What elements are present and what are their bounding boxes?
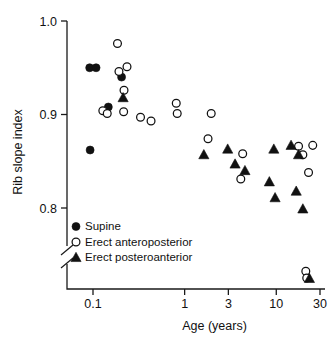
data-point [237, 175, 245, 183]
data-point [269, 144, 279, 153]
y-tick-label-0.9: 0.9 [40, 108, 57, 122]
legend-label-1: Erect anteroposterior [85, 236, 193, 248]
legend-marker-open-circle [72, 238, 80, 246]
y-tick-label-1.0: 1.0 [40, 15, 57, 29]
data-point [92, 64, 100, 72]
data-point [115, 68, 123, 76]
x-tick-label-3: 3 [225, 297, 232, 311]
data-point [120, 108, 128, 116]
x-axis-title: Age (years) [182, 319, 247, 333]
data-point [291, 186, 301, 195]
data-point [305, 169, 313, 177]
legend-item-0: Supine [72, 220, 121, 232]
data-point [137, 113, 145, 121]
x-tick-label-10: 10 [269, 297, 283, 311]
legend-marker-filled-triangle [71, 252, 81, 261]
data-point [240, 165, 250, 174]
figure-container: 0.80.91.00.1131030 SupineErect anteropos… [0, 0, 335, 341]
legend-item-1: Erect anteroposterior [72, 236, 192, 248]
data-point [147, 117, 155, 125]
axis-titles: Age (years)Rib slope index [11, 109, 247, 333]
data-point [204, 135, 212, 143]
data-point [298, 204, 308, 213]
x-tick-label-0.1: 0.1 [84, 297, 101, 311]
data-point [309, 141, 317, 149]
data-point [207, 110, 215, 118]
data-point [123, 63, 131, 71]
x-tick-label-1: 1 [181, 297, 188, 311]
axes [61, 21, 325, 289]
legend-label-2: Erect posteroanterior [85, 251, 193, 263]
data-point [114, 40, 122, 48]
data-point [120, 86, 128, 94]
data-point [223, 144, 233, 153]
y-tick-label-0.8: 0.8 [40, 202, 57, 216]
legend-marker-filled-circle [72, 223, 80, 231]
data-point [172, 99, 180, 107]
legend: SupineErect anteroposteriorErect postero… [71, 220, 193, 263]
y-axis-title: Rib slope index [11, 109, 25, 195]
data-point [86, 146, 94, 154]
data-point [103, 110, 111, 118]
scatter-plot: 0.80.91.00.1131030 SupineErect anteropos… [0, 0, 335, 341]
data-point [270, 193, 280, 202]
axis-spines [67, 21, 325, 289]
data-point [230, 159, 240, 168]
data-point [199, 150, 209, 159]
legend-label-0: Supine [85, 220, 121, 232]
break-slash-upper [61, 245, 73, 255]
axis-tick-labels: 0.80.91.00.1131030 [40, 15, 327, 312]
data-point [239, 150, 247, 158]
data-point [264, 177, 274, 186]
data-point [173, 110, 181, 118]
legend-item-2: Erect posteroanterior [71, 251, 193, 263]
x-tick-label-30: 30 [313, 297, 327, 311]
